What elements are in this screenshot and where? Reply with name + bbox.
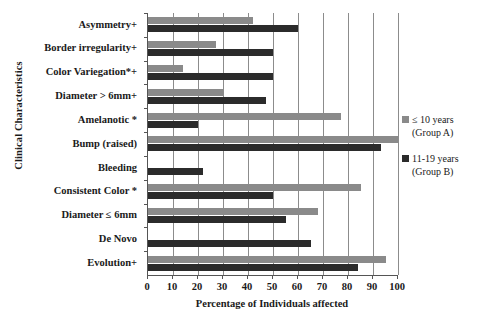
bar [148, 136, 398, 143]
bar [148, 41, 216, 48]
x-tick-label: 100 [389, 281, 405, 292]
category-label: Color Variegation*+ [18, 61, 142, 85]
x-axis-tick [247, 275, 248, 279]
bar [148, 264, 358, 271]
bar [148, 25, 298, 32]
x-tick-label: 20 [192, 281, 203, 292]
y-axis-tick [144, 61, 148, 62]
bar-group [148, 37, 398, 61]
category-label-column: Asymmetry+Border irregularity+Color Vari… [18, 13, 142, 275]
y-axis-tick [144, 37, 148, 38]
x-tick-label-row: 0102030405060708090100 [0, 281, 496, 295]
category-label: Bump (raised) [18, 132, 142, 156]
legend-entry: 11-19 years (Group B) [402, 153, 496, 178]
bar-chart: Clinical Characteristics Asymmetry+Borde… [0, 0, 496, 319]
legend-entry: ≤ 10 years (Group A) [402, 114, 496, 139]
legend-swatch [402, 155, 409, 162]
bar [148, 240, 311, 247]
y-axis-tick [144, 251, 148, 252]
x-axis-tick [222, 275, 223, 279]
bar [148, 49, 273, 56]
bar [148, 208, 318, 215]
category-label: Evolution+ [18, 251, 142, 275]
x-axis-line [147, 275, 397, 276]
x-tick-label: 40 [242, 281, 253, 292]
x-tick-label: 0 [144, 281, 149, 292]
bar [148, 144, 381, 151]
category-label: Bleeding [18, 156, 142, 180]
category-label: Amelanotic * [18, 108, 142, 132]
x-axis-tick [147, 275, 148, 279]
bar-group [148, 61, 398, 85]
y-axis-tick [144, 84, 148, 85]
bar-group [148, 204, 398, 228]
y-axis-tick [144, 227, 148, 228]
plot-area [147, 13, 398, 275]
x-axis-tick [272, 275, 273, 279]
bar-group [148, 180, 398, 204]
x-axis-tick [372, 275, 373, 279]
bar [148, 121, 198, 128]
category-label: Diameter ≤ 6mm [18, 204, 142, 228]
x-tick-label: 50 [267, 281, 278, 292]
bar [148, 97, 266, 104]
y-axis-tick [144, 13, 148, 14]
bar-group [148, 84, 398, 108]
x-axis-tick [322, 275, 323, 279]
category-label: Border irregularity+ [18, 37, 142, 61]
bar-group [148, 156, 398, 180]
bar-group [148, 13, 398, 37]
bar-group [148, 132, 398, 156]
x-tick-label: 10 [167, 281, 178, 292]
bar [148, 184, 361, 191]
y-axis-tick [144, 108, 148, 109]
y-axis-tick [144, 204, 148, 205]
category-label: Consistent Color * [18, 180, 142, 204]
category-label: De Novo [18, 227, 142, 251]
bar [148, 256, 386, 263]
gridline [398, 13, 399, 275]
x-axis-tick [172, 275, 173, 279]
legend: ≤ 10 years (Group A)11-19 years (Group B… [402, 114, 496, 192]
category-label: Diameter > 6mm+ [18, 84, 142, 108]
x-axis-tick [297, 275, 298, 279]
category-label: Asymmetry+ [18, 13, 142, 37]
x-tick-label: 90 [367, 281, 378, 292]
bar-group [148, 227, 398, 251]
bar [148, 65, 183, 72]
bar [148, 113, 341, 120]
bar-series-container [148, 13, 398, 275]
legend-label: 11-19 years (Group B) [412, 153, 459, 178]
bar [148, 216, 286, 223]
y-axis-tick [144, 156, 148, 157]
x-axis-title: Percentage of Individuals affected [147, 298, 397, 309]
legend-swatch [402, 116, 409, 123]
y-axis-tick [144, 180, 148, 181]
bar [148, 17, 253, 24]
x-tick-label: 80 [342, 281, 353, 292]
x-axis-tick [197, 275, 198, 279]
bar-group [148, 251, 398, 275]
x-tick-label: 60 [292, 281, 303, 292]
bar-group [148, 108, 398, 132]
x-tick-label: 70 [317, 281, 328, 292]
bar [148, 192, 273, 199]
bar [148, 168, 203, 175]
legend-label: ≤ 10 years (Group A) [412, 114, 454, 139]
x-axis-tick [347, 275, 348, 279]
x-tick-label: 30 [217, 281, 228, 292]
bar [148, 73, 273, 80]
x-axis-tick [397, 275, 398, 279]
bar [148, 89, 223, 96]
y-axis-tick [144, 132, 148, 133]
